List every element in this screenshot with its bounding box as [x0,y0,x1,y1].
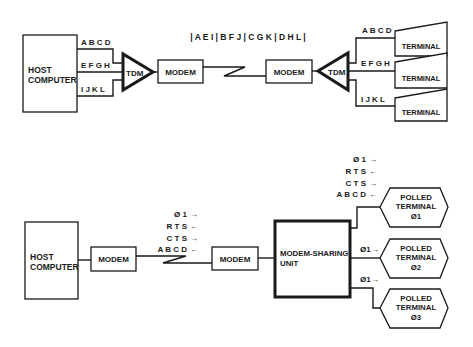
phone-line-bottom [136,256,212,263]
modem-sharing-unit: MODEM-SHARING UNIT [275,221,350,297]
signal-arrow: ← [369,167,377,176]
pt-label-line1: POLLED [400,244,432,253]
pt-label-line2: TERMINAL [396,303,437,312]
signal-label: R T S [346,167,367,176]
signal-label: Ø 1 [353,155,366,164]
host-computer-bottom: HOST COMPUTER [25,222,79,299]
signal-arrow: ← [190,245,198,254]
terminal-label: TERMINAL [402,74,441,83]
pt-label-line3: Ø2 [411,263,422,272]
signal-arrow: → [190,210,198,219]
terminal-2: TERMINAL [395,53,447,88]
signal-arrow: ← [190,222,198,231]
pt-label-line3: Ø1 [411,212,422,221]
top-diagram: HOST COMPUTER A B C D E F G H I J K L TD… [23,22,447,121]
channel-label-efgh: E F G H [81,61,110,70]
tdm-left-label: TDM [126,69,144,78]
terminal-label: TERMINAL [402,42,441,51]
pt-label-line1: POLLED [400,193,432,202]
modem-label: MODEM [165,68,196,77]
modem-top-right: MODEM [266,60,312,83]
channel-label-right-abcd: A B C D [362,26,392,35]
polled-terminal-1: POLLED TERMINAL Ø1 [380,188,448,227]
line-to-pt1 [350,207,380,228]
bottom-diagram: HOST COMPUTER MODEM Ø 1 → R T S ← C T S … [25,155,448,328]
signal-label: A B C D [158,245,188,254]
phone-line-top [203,67,266,76]
host-label-line1: HOST [30,252,54,262]
pt2-signal-arrow: → [371,245,379,254]
signal-label: Ø 1 [174,210,187,219]
pt2-signal-label: Ø1 [360,245,371,254]
modem-label: MODEM [98,255,129,264]
pt-label-line2: TERMINAL [396,202,437,211]
host-computer-top: HOST COMPUTER [23,35,77,112]
signal-label: R T S [167,222,188,231]
terminal-label: TERMINAL [402,108,441,117]
host-label-line2: COMPUTER [30,262,79,272]
tdm-right: TDM [318,53,348,90]
signal-arrow: → [369,155,377,164]
network-diagram: HOST COMPUTER A B C D E F G H I J K L TD… [0,0,473,347]
signal-arrow: → [190,234,198,243]
pt-label-line3: Ø3 [411,313,422,322]
signal-label: C T S [167,234,188,243]
channel-label-ijkl: I J K L [81,85,105,94]
signal-label: A B C D [337,190,367,199]
signal-arrow: ← [369,190,377,199]
polled-terminal-2: POLLED TERMINAL Ø2 [380,239,448,278]
tdm-right-label: TDM [328,68,346,77]
msu-label-line2: UNIT [280,259,298,268]
pt-label-line2: TERMINAL [396,253,437,262]
signal-arrow: → [369,179,377,188]
modem-bottom-right: MODEM [212,247,258,270]
host-label-line1: HOST [28,65,52,75]
channel-label-abcd: A B C D [81,38,111,47]
host-label-line2: COMPUTER [28,75,77,85]
signal-label: C T S [346,179,367,188]
pt-label-line1: POLLED [400,294,432,303]
line-to-pt3 [350,288,380,308]
channel-label-right-ijkl: I J K L [361,95,385,104]
pt3-signal-label: Ø1 [360,275,371,284]
modem-bottom-left: MODEM [91,247,136,271]
channel-label-right-efgh: E F G H [361,59,390,68]
signal-list-left: Ø 1 → R T S ← C T S → A B C D ← [158,210,198,254]
modem-top-left: MODEM [158,60,203,83]
msu-label-line1: MODEM-SHARING [280,249,348,258]
modem-label: MODEM [220,255,251,264]
multiplexed-frame-label: | A E I | B F J | C G K | D H L | [190,32,305,42]
tdm-left: TDM [123,54,153,90]
pt3-signal-arrow: → [371,275,379,284]
signal-list-right: Ø 1 → R T S ← C T S → A B C D ← [337,155,377,199]
modem-label: MODEM [274,68,305,77]
terminal-1: TERMINAL [395,22,447,56]
polled-terminal-3: POLLED TERMINAL Ø3 [380,289,448,328]
terminal-3: TERMINAL [395,89,447,121]
